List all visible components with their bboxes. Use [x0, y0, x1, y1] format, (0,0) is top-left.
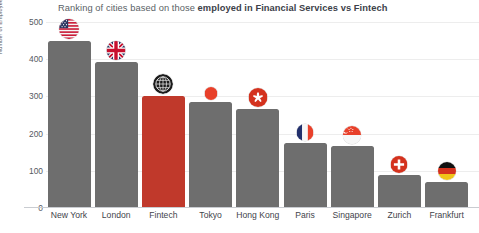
x-label-new-york: New York	[51, 210, 87, 220]
x-label-london: London	[102, 210, 131, 220]
x-axis-line	[24, 207, 479, 208]
x-label-hong-kong: Hong Kong	[236, 210, 279, 220]
flag-switzerland-icon	[391, 156, 408, 173]
x-label-tokyo: Tokyo	[199, 210, 221, 220]
y-tick-200: 200	[3, 129, 43, 139]
flag-germany-icon	[438, 162, 456, 180]
x-axis-labels: New YorkLondonFintechTokyoHong KongParis…	[46, 210, 479, 230]
y-tick-300: 300	[3, 91, 43, 101]
x-label-paris: Paris	[295, 210, 315, 220]
fintech-globe-icon	[153, 74, 173, 94]
bar-chart: Ranking of cities based on those employe…	[0, 0, 479, 233]
flag-singapore-icon	[343, 126, 361, 144]
flag-france-icon	[297, 124, 314, 141]
flag-hong-kong-icon	[248, 88, 267, 107]
x-label-frankfurt: Frankfurt	[429, 210, 463, 220]
y-axis-ticks: 500 400 300 200 100 0	[0, 0, 43, 233]
x-label-zurich: Zurich	[387, 210, 411, 220]
category-icons	[46, 0, 479, 208]
x-label-fintech: Fintech	[149, 210, 177, 220]
y-tick-100: 100	[3, 166, 43, 176]
y-tick-0: 0	[3, 203, 43, 213]
y-tick-500: 500	[3, 17, 43, 27]
flag-united-kingdom-icon	[107, 41, 126, 60]
x-label-singapore: Singapore	[333, 210, 372, 220]
y-tick-400: 400	[3, 54, 43, 64]
flag-united-states-icon	[59, 19, 79, 39]
flag-japan-icon	[204, 87, 217, 100]
